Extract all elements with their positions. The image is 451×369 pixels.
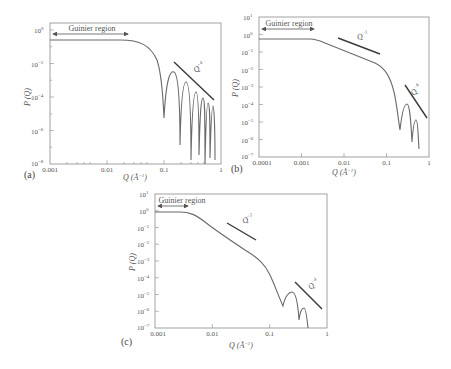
x-tick-label: 0.1 — [382, 159, 391, 167]
slope-line-q-2 — [227, 223, 256, 240]
x-tick-label: 0.001 — [150, 330, 166, 338]
y-tick-label: 100 — [34, 26, 44, 35]
panel-b: 101 100 10−1 10−2 10−3 10−4 10−5 10−6 10… — [231, 13, 431, 177]
plot-frame — [259, 17, 429, 157]
plot-frame — [50, 23, 221, 164]
y-tick-label: 10−2 — [241, 66, 254, 75]
x-tick-label: 0.0001 — [252, 159, 272, 167]
y-tick-label: 10−1 — [137, 224, 150, 233]
panel-label: (b) — [231, 163, 243, 175]
data-curve — [259, 39, 419, 149]
figure: 100 10−2 10−4 10−6 10−8 0.001 0.01 0.1 1… — [0, 0, 451, 369]
slope-label: Q−2 — [241, 212, 256, 226]
y-tick-label: 10−4 — [137, 274, 150, 283]
y-tick-label: 10−2 — [137, 240, 150, 249]
panel-a: 100 10−2 10−4 10−6 10−8 0.001 0.01 0.1 1… — [23, 23, 223, 182]
y-axis-label: P (Q) — [231, 79, 240, 98]
guinier-label: Guinier region — [266, 19, 313, 28]
y-ticks — [259, 35, 263, 140]
x-ticks — [212, 324, 269, 328]
y-ticks — [155, 211, 159, 312]
panel-label: (c) — [121, 336, 132, 348]
x-axis-label: Q (Å−1) — [123, 173, 147, 182]
x-tick-label: 0.1 — [160, 166, 169, 174]
x-tick-label: 0.01 — [338, 159, 351, 167]
y-tick-label: 10−4 — [31, 93, 44, 102]
x-tick-label: 0.1 — [265, 330, 274, 338]
data-curve — [50, 40, 215, 164]
y-tick-label: 10−3 — [137, 257, 150, 266]
y-tick-label: 100 — [139, 207, 149, 216]
y-tick-label: 10−1 — [241, 48, 254, 57]
plot-frame — [155, 194, 327, 328]
slope-label: Q−4 — [192, 60, 207, 75]
y-tick-label: 10−4 — [241, 101, 254, 110]
x-tick-label: 0.01 — [101, 166, 114, 174]
y-tick-label: 10−6 — [31, 127, 44, 136]
x-axis-label: Q (Å−1) — [332, 168, 356, 177]
x-ticks — [67, 160, 204, 164]
x-tick-label: 0.01 — [206, 330, 219, 338]
data-curve — [155, 212, 308, 328]
y-axis-label: P (Q) — [128, 253, 137, 272]
y-tick-label: 10−5 — [241, 118, 254, 127]
x-ticks — [302, 153, 387, 157]
x-tick-label: 1 — [427, 159, 431, 167]
y-tick-label: 10−7 — [137, 323, 150, 332]
panel-label: (a) — [24, 169, 35, 181]
y-tick-label: 10−3 — [241, 83, 254, 92]
y-tick-label: 10−2 — [31, 60, 44, 69]
y-tick-label: 101 — [139, 190, 149, 199]
y-tick-label: 100 — [243, 31, 253, 40]
x-tick-label: 1 — [325, 330, 329, 338]
y-tick-label: 101 — [243, 13, 253, 22]
x-axis-label: Q (Å−1) — [229, 341, 253, 350]
y-tick-label: 10−5 — [137, 291, 150, 300]
y-tick-label: 10−6 — [241, 136, 254, 145]
guinier-label: Guinier region — [159, 196, 206, 205]
panel-c: 101 100 10−1 10−2 10−3 10−4 10−5 10−6 10… — [121, 190, 329, 350]
y-tick-label: 10−6 — [137, 307, 150, 316]
x-tick-label: 1 — [219, 166, 223, 174]
x-tick-label: 0.001 — [42, 166, 58, 174]
slope-label: Q−1 — [356, 29, 370, 41]
y-ticks — [50, 30, 54, 147]
x-tick-label: 0.001 — [294, 159, 310, 167]
guinier-label: Guinier region — [69, 24, 116, 33]
y-axis-label: P (Q) — [23, 88, 32, 107]
slope-label: Q−4 — [306, 276, 321, 291]
